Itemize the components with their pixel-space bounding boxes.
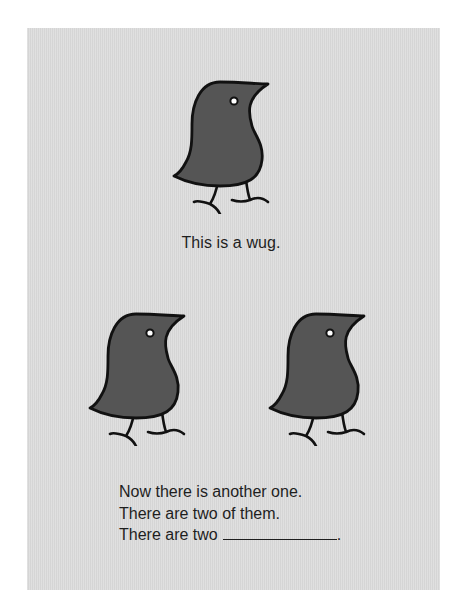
prompt-line-3-text: There are two <box>119 526 218 543</box>
wug-bird-icon <box>266 310 370 446</box>
blank-period: . <box>337 526 341 543</box>
prompt-text: Now there is another one. There are two … <box>119 481 341 546</box>
caption-single-wug: This is a wug. <box>0 234 462 252</box>
wug-bird-icon <box>86 310 190 446</box>
fill-in-blank <box>223 525 337 540</box>
wug-bird-icon <box>170 78 274 214</box>
prompt-line-1: Now there is another one. <box>119 481 341 503</box>
prompt-line-3: There are two. <box>119 524 341 546</box>
prompt-line-2: There are two of them. <box>119 503 341 525</box>
